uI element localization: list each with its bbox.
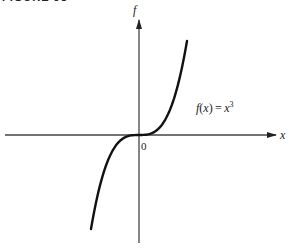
y-axis-label: f bbox=[133, 3, 138, 17]
origin-label: 0 bbox=[141, 140, 147, 152]
curve-label: f(x) = x3 bbox=[196, 100, 234, 115]
cubic-function-graph: f x 0 f(x) = x3 bbox=[0, 0, 292, 250]
x-axis-label: x bbox=[279, 128, 286, 142]
